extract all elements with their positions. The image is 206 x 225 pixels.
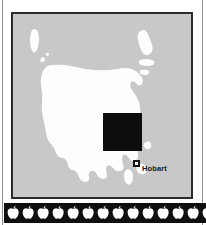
hobart-city-marker — [133, 160, 140, 167]
apple-icon — [111, 205, 125, 221]
figure-root: Hobart — [0, 0, 206, 225]
apple-icon — [66, 205, 80, 221]
maria-island-shape — [144, 141, 152, 149]
tasmania-map-panel: Hobart — [11, 12, 193, 199]
apple-icon — [186, 205, 200, 221]
apple-icon — [201, 205, 206, 221]
apple-icon — [171, 205, 185, 221]
study-area-square — [103, 113, 142, 151]
flinders-island-shape — [138, 30, 153, 55]
bruny-island-shape — [124, 169, 133, 184]
cape-barren-island-shape — [139, 59, 155, 66]
apple-icon — [96, 205, 110, 221]
hunter-islet-shape — [40, 57, 45, 62]
hobart-city-label: Hobart — [142, 164, 167, 173]
apple-border-strip — [4, 203, 206, 223]
apple-icon — [51, 205, 65, 221]
apple-icon — [126, 205, 140, 221]
apple-icon-row — [6, 203, 206, 223]
apple-icon — [36, 205, 50, 221]
king-island-shape — [30, 29, 39, 53]
apple-icon — [21, 205, 35, 221]
page-rule-left — [2, 0, 3, 225]
apple-icon — [81, 205, 95, 221]
apple-icon — [6, 205, 20, 221]
three-hummock-islet-shape — [46, 53, 49, 56]
page-rule-right — [202, 0, 203, 225]
apple-icon — [156, 205, 170, 221]
map-inner-canvas: Hobart — [13, 14, 191, 197]
clarke-island-shape — [140, 70, 150, 75]
apple-icon — [141, 205, 155, 221]
